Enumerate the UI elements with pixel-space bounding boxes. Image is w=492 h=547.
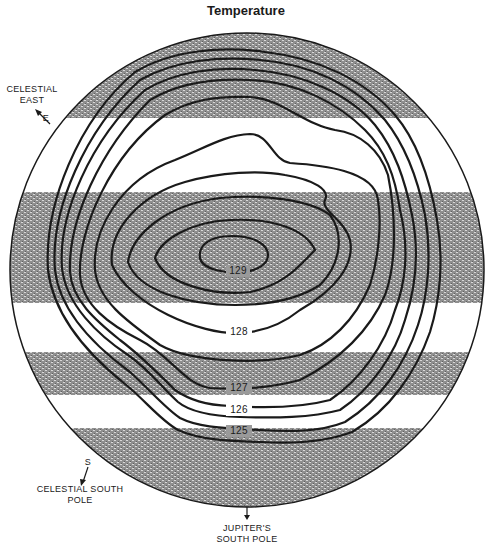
east-marker-label: E: [41, 113, 51, 124]
celestial-south-pole-label: CELESTIAL SOUTH POLE: [30, 484, 130, 506]
contour-label-129: 129: [226, 265, 250, 276]
contour-label-126: 126: [226, 404, 252, 415]
band-north: [0, 30, 492, 118]
celestial-east-label: CELESTIAL EAST: [4, 84, 60, 106]
contour-label-128: 128: [226, 326, 252, 337]
pole-arrowhead-icon: [244, 515, 250, 520]
contour-label-127: 127: [226, 382, 252, 393]
contour-label-125: 125: [226, 425, 252, 436]
jupiter-south-pole-label: JUPITER'S SOUTH POLE: [197, 523, 297, 545]
south-marker-label: S: [83, 457, 93, 468]
